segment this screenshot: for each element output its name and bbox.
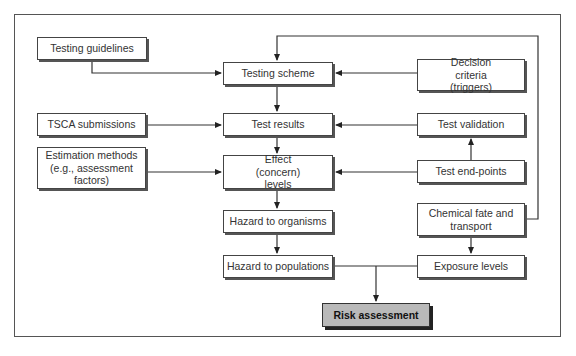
node-label: TSCA submissions [47, 118, 135, 131]
node-estimation-methods: Estimation methods (e.g., assessment fac… [37, 147, 146, 189]
node-label: Testing guidelines [50, 42, 133, 55]
node-exposure-levels: Exposure levels [417, 255, 525, 278]
node-label: Decision criteria (triggers) [434, 56, 508, 94]
node-chemical-fate: Chemical fate and transport [417, 203, 525, 236]
node-label: Test validation [438, 118, 505, 131]
node-label: Exposure levels [434, 260, 508, 273]
node-label: Testing scheme [242, 67, 315, 80]
node-testing-guidelines: Testing guidelines [37, 37, 147, 60]
node-test-endpoints: Test end-points [417, 160, 525, 183]
node-hazard-organisms: Hazard to organisms [223, 210, 333, 233]
node-test-validation: Test validation [417, 113, 525, 136]
node-decision-criteria: Decision criteria (triggers) [417, 59, 525, 91]
node-label: Hazard to populations [227, 260, 329, 273]
node-test-results: Test results [223, 113, 333, 136]
node-label: Hazard to organisms [230, 215, 327, 228]
node-hazard-populations: Hazard to populations [223, 255, 333, 278]
node-label: Test results [251, 118, 304, 131]
node-testing-scheme: Testing scheme [223, 62, 333, 85]
node-label: Risk assessment [333, 309, 418, 322]
node-tsca-submissions: TSCA submissions [37, 113, 146, 136]
node-label: Estimation methods (e.g., assessment fac… [44, 149, 139, 187]
node-effect-levels: Effect (concern) levels [223, 155, 333, 189]
node-label: Test end-points [435, 165, 506, 178]
node-risk-assessment: Risk assessment [322, 303, 430, 327]
node-label: Chemical fate and transport [428, 207, 514, 232]
node-label: Effect (concern) levels [242, 153, 314, 191]
